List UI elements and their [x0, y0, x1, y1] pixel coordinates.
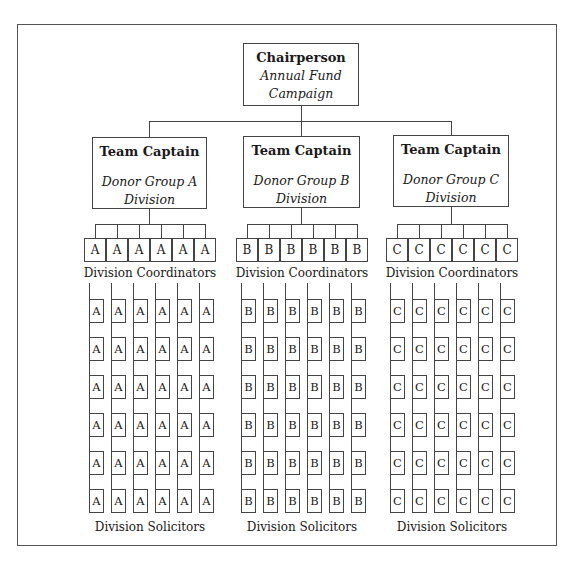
coordinator-b-drop	[291, 224, 292, 238]
solicitor-c-box: C	[434, 299, 449, 323]
chairperson-subtitle-line2: Campaign	[244, 85, 358, 103]
solicitor-b-box: B	[351, 299, 366, 323]
coordinator-c-drop	[419, 224, 420, 238]
solicitor-c-box: C	[478, 337, 493, 361]
coordinator-b-box: B	[324, 238, 346, 262]
solicitor-c-box: C	[412, 451, 427, 475]
captain-b-stem	[301, 208, 302, 224]
captain-b-connector	[301, 121, 302, 136]
coordinator-c-drop	[485, 224, 486, 238]
solicitor-a-box: A	[177, 299, 192, 323]
solicitor-a-box: A	[133, 375, 148, 399]
solicitor-b-box: B	[351, 375, 366, 399]
solicitor-a-box: A	[199, 299, 214, 323]
solicitor-a-box: A	[177, 375, 192, 399]
solicitor-c-box: C	[500, 337, 515, 361]
solicitor-a-box: A	[199, 375, 214, 399]
solicitor-a-box: A	[155, 299, 170, 323]
solicitors-label-b: Division Solicitors	[232, 520, 372, 534]
coordinator-c-drop	[441, 224, 442, 238]
solicitor-b-box: B	[351, 413, 366, 437]
solicitor-c-box: C	[434, 451, 449, 475]
solicitor-c-box: C	[500, 489, 515, 513]
solicitor-a-box: A	[177, 337, 192, 361]
team-captain-c-title: Team Captain	[394, 141, 508, 159]
captain-a-stem	[149, 209, 150, 224]
chairperson-subtitle-line1: Annual Fund	[244, 67, 358, 85]
coordinator-b-box: B	[258, 238, 280, 262]
solicitor-b-box: B	[307, 337, 322, 361]
coordinator-b-box: B	[236, 238, 258, 262]
solicitor-c-box: C	[434, 337, 449, 361]
coordinators-label-a: Division Coordinators	[80, 266, 220, 280]
solicitor-a-box: A	[133, 451, 148, 475]
coordinators-c-bracket	[397, 224, 508, 225]
solicitor-a-box: A	[177, 451, 192, 475]
solicitor-a-box: A	[89, 375, 104, 399]
solicitor-b-box: B	[351, 451, 366, 475]
solicitor-b-box: B	[263, 375, 278, 399]
solicitor-b-box: B	[329, 413, 344, 437]
captain-a-connector	[149, 121, 150, 137]
coordinator-c-drop	[507, 224, 508, 238]
coordinator-a-box: A	[128, 238, 150, 262]
solicitor-b-box: B	[241, 375, 256, 399]
solicitor-a-box: A	[89, 337, 104, 361]
solicitor-b-box: B	[285, 413, 300, 437]
coordinator-b-box: B	[302, 238, 324, 262]
team-captain-a-division: Division	[93, 191, 206, 209]
solicitor-c-box: C	[412, 299, 427, 323]
team-captain-b-division: Division	[244, 190, 359, 208]
solicitor-b-box: B	[329, 337, 344, 361]
chairperson-box: Chairperson Annual Fund Campaign	[243, 43, 359, 106]
solicitor-a-box: A	[199, 489, 214, 513]
coordinators-a-bracket	[95, 224, 206, 225]
coordinator-a-box: A	[84, 238, 106, 262]
solicitor-c-box: C	[434, 375, 449, 399]
solicitor-c-box: C	[500, 451, 515, 475]
solicitor-c-box: C	[434, 489, 449, 513]
coordinator-a-drop	[161, 224, 162, 238]
coordinator-a-drop	[117, 224, 118, 238]
team-captain-b-group: Donor Group B	[244, 172, 359, 190]
solicitor-c-box: C	[456, 337, 471, 361]
solicitor-b-box: B	[241, 413, 256, 437]
solicitor-a-box: A	[199, 451, 214, 475]
solicitor-c-box: C	[412, 413, 427, 437]
coordinator-b-drop	[247, 224, 248, 238]
solicitor-c-box: C	[478, 299, 493, 323]
team-captain-c-box: Team Captain Donor Group C Division	[393, 135, 509, 207]
team-captain-c-group: Donor Group C	[394, 171, 508, 189]
solicitor-c-box: C	[434, 413, 449, 437]
solicitor-b-box: B	[285, 375, 300, 399]
solicitor-b-box: B	[241, 451, 256, 475]
solicitor-b-box: B	[285, 451, 300, 475]
solicitor-b-box: B	[351, 489, 366, 513]
solicitor-c-box: C	[456, 489, 471, 513]
team-captain-a-title: Team Captain	[93, 143, 206, 161]
coordinator-c-drop	[397, 224, 398, 238]
coordinator-c-drop	[463, 224, 464, 238]
coordinator-a-drop	[139, 224, 140, 238]
coordinator-c-box: C	[386, 238, 408, 262]
solicitor-c-box: C	[412, 489, 427, 513]
solicitor-b-box: B	[307, 489, 322, 513]
chairperson-title: Chairperson	[244, 49, 358, 67]
solicitor-b-box: B	[285, 489, 300, 513]
coordinator-a-drop	[95, 224, 96, 238]
coordinator-a-box: A	[106, 238, 128, 262]
solicitor-b-box: B	[285, 337, 300, 361]
solicitor-a-box: A	[133, 413, 148, 437]
solicitor-c-box: C	[478, 451, 493, 475]
solicitor-b-box: B	[263, 337, 278, 361]
solicitor-b-box: B	[329, 451, 344, 475]
team-captain-a-box: Team Captain Donor Group A Division	[92, 137, 207, 209]
solicitor-c-box: C	[500, 413, 515, 437]
solicitor-c-box: C	[412, 375, 427, 399]
coordinator-a-box: A	[172, 238, 194, 262]
solicitor-c-box: C	[456, 413, 471, 437]
solicitor-c-box: C	[390, 451, 405, 475]
solicitors-label-a: Division Solicitors	[80, 520, 220, 534]
solicitor-b-box: B	[263, 489, 278, 513]
solicitor-c-box: C	[390, 337, 405, 361]
